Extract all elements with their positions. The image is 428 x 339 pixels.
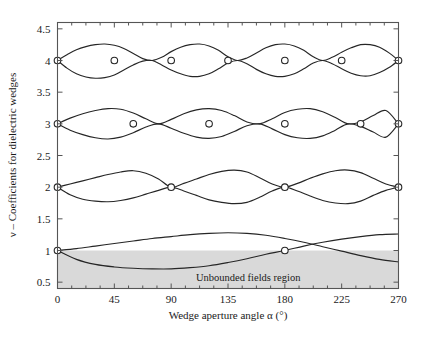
curve-nu-2-lower-branch (58, 187, 399, 204)
x-tick-label: 0 (55, 293, 61, 305)
data-point-marker (357, 121, 364, 128)
data-point-marker (338, 57, 345, 64)
data-point-marker (225, 57, 232, 64)
curve-nu-3-upper-branch (58, 108, 399, 124)
x-tick-label: 225 (333, 293, 350, 305)
curves-group (58, 44, 399, 269)
figure-container: 045901351802252700.511.522.533.544.5 Unb… (0, 0, 428, 339)
y-tick-label: 3.5 (37, 86, 51, 98)
y-tick-label: 1.5 (37, 213, 51, 225)
data-point-marker (282, 184, 289, 191)
markers-group (54, 57, 402, 254)
unbounded-region-label: Unbounded fields region (196, 272, 301, 283)
x-tick-label: 45 (109, 293, 121, 305)
y-tick-label: 4 (45, 55, 51, 67)
x-tick-label: 90 (166, 293, 178, 305)
y-tick-label: 1 (45, 245, 51, 257)
data-point-marker (111, 57, 118, 64)
data-point-marker (282, 57, 289, 64)
data-point-marker (168, 184, 175, 191)
data-point-marker (206, 121, 213, 128)
data-point-marker (282, 247, 289, 254)
y-tick-label: 4.5 (37, 23, 51, 35)
curve-nu-2-upper-branch (58, 170, 399, 187)
y-tick-label: 2 (45, 181, 51, 193)
x-axis-title: Wedge aperture angle α (°) (169, 309, 288, 322)
data-point-marker (282, 121, 289, 128)
x-tick-label: 135 (220, 293, 237, 305)
data-point-marker (130, 121, 137, 128)
chart-plot: 045901351802252700.511.522.533.544.5 Unb… (0, 0, 428, 339)
y-tick-label: 3 (45, 118, 51, 130)
x-tick-label: 180 (277, 293, 294, 305)
x-tick-label: 270 (390, 293, 407, 305)
curve-nu-3-lower-branch (58, 124, 399, 139)
y-axis-title: ν – Coefficients for dielectric wedges (6, 73, 18, 238)
y-tick-label: 2.5 (37, 150, 51, 162)
data-point-marker (168, 57, 175, 64)
y-tick-label: 0.5 (37, 276, 51, 288)
